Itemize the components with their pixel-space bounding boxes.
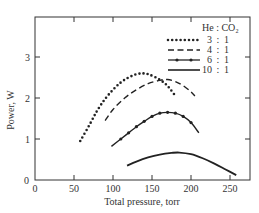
x-tick-label: 200 <box>184 183 199 194</box>
chart-canvas: 050100150200250 0123 He : CO₂3:14:16:110… <box>0 0 259 213</box>
series-6-1-marker <box>150 115 153 118</box>
series-10-1-solid <box>127 152 236 175</box>
series-6-1-marker <box>127 131 130 134</box>
series-6-1-marker <box>174 112 177 115</box>
series-layer <box>80 73 236 175</box>
y-tick-label: 0 <box>24 175 29 186</box>
y-tick-label: 3 <box>25 52 30 63</box>
x-tick-label: 250 <box>223 183 238 194</box>
series-6-1-marker <box>135 125 138 128</box>
legend: He : CO₂3:14:16:110:1 <box>168 22 239 75</box>
series-6-1-line <box>111 112 198 146</box>
y-tick-label: 2 <box>25 93 30 104</box>
x-tick-label: 0 <box>33 183 38 194</box>
series-3-1-dotted <box>80 73 175 141</box>
series-6-1-marker <box>166 111 169 114</box>
x-axis-label: Total pressure, torr <box>104 196 180 207</box>
y-tick-label: 1 <box>25 134 30 145</box>
legend-ratio-he: 10 <box>202 64 212 75</box>
x-tick-label: 150 <box>145 183 160 194</box>
series-6-1-marker <box>143 120 146 123</box>
series-6-1-marker <box>182 115 185 118</box>
series-6-1-marker <box>189 121 192 124</box>
x-tick-label: 50 <box>69 183 79 194</box>
legend-header: He : CO₂ <box>202 22 239 33</box>
series-6-1-marker <box>158 112 161 115</box>
x-tick-label: 100 <box>106 183 121 194</box>
y-axis-label: Power, W <box>5 90 16 130</box>
legend-ratio-co2: 1 <box>224 64 229 75</box>
legend-sep: : <box>217 64 220 75</box>
series-6-1-marker <box>119 137 122 140</box>
